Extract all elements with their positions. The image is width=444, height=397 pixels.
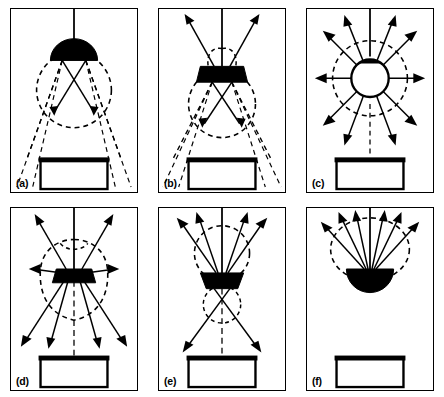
arrowhead [240,212,249,224]
light-ray [325,226,364,269]
arrowhead [107,264,119,274]
arrowhead [323,115,336,126]
arrowhead [250,14,260,25]
arrowhead [49,106,58,116]
arrowhead [379,210,388,222]
panel-c-diagram [307,9,433,192]
arrowhead [46,337,55,349]
arrowhead [104,214,114,226]
light-ray [54,60,86,111]
arrowhead [343,134,352,146]
arrowhead [315,73,327,83]
arrowhead [21,335,32,347]
panel-cell-c: (c) [296,0,444,199]
arrowhead [29,264,41,274]
arrowhead [321,222,333,233]
arrowhead [339,212,348,224]
light-ray [25,281,64,342]
luminaire-fixture [50,39,97,61]
panel-cell-e: (e) [148,199,296,397]
arrowhead [185,14,195,25]
panel-label-f: (f) [312,375,322,387]
light-ray [198,216,218,273]
work-surface [187,356,258,387]
arrowhead [93,337,102,349]
work-surface [335,356,406,387]
panel-e-diagram [159,208,285,390]
distribution-lobe [37,53,112,128]
arrowhead [177,218,189,229]
light-ray [187,289,230,348]
panel-a-diagram [11,9,137,192]
panel-label-c: (c) [312,177,324,189]
light-ray [212,82,240,124]
panel-d: (d) [10,207,138,391]
light-ray [50,281,68,344]
arrowhead [393,212,402,224]
arrowhead [407,222,419,233]
light-ray [204,82,232,124]
arrowhead [352,210,361,222]
luminaire-fixture [196,66,247,82]
work-surface [39,157,110,189]
work-surface [187,157,258,189]
light-ray [376,226,415,269]
light-ray [37,218,67,269]
panel-label-b: (b) [164,177,177,189]
arrowhead [404,115,417,126]
panel-f: (f) [306,207,434,391]
panel-cell-d: (d) [0,199,148,397]
arrowhead [90,106,99,116]
light-ray [181,222,216,273]
panel-label-e: (e) [164,375,176,387]
arrowhead [388,15,397,27]
distribution-lobe-upper [208,48,222,66]
light-ray [80,281,98,344]
arrowhead [343,15,352,27]
panel-f-diagram [307,208,433,390]
light-ray [84,281,123,342]
arrowhead [255,218,267,229]
light-ray [214,289,257,348]
light-ray [82,218,112,269]
panel-d-diagram [11,208,137,390]
panel-b-diagram [159,9,285,192]
panel-c: (c) [306,8,434,193]
arrowhead [198,118,207,128]
panel-cell-f: (f) [296,199,444,397]
panel-cell-b: (b) [148,0,296,199]
light-ray [187,17,215,66]
arrowhead [404,31,417,42]
work-surface [39,356,110,387]
arrowhead [413,73,425,83]
arrowhead [388,134,397,146]
panel-e: (e) [158,207,286,391]
panel-label-d: (d) [16,375,29,387]
panel-b: (b) [158,8,286,193]
panel-label-a: (a) [16,177,28,189]
distribution-lobe-upper [222,48,236,66]
panel-grid: (a) [0,0,444,397]
luminaire-fixture [346,269,393,293]
panel-cell-a: (a) [0,0,148,199]
panel-a: (a) [10,8,138,193]
arrowhead [251,341,262,353]
light-ray [230,17,258,66]
lighting-distribution-figure: (a) [0,0,444,397]
luminaire-fixture [351,59,388,97]
light-ray [226,216,246,273]
arrowhead [183,341,194,353]
light-ray [228,222,263,273]
arrowhead [237,118,246,128]
arrowhead [35,214,45,226]
luminaire-fixture [200,273,243,289]
light-ray [62,60,94,111]
luminaire-fixture [52,269,95,283]
arrowhead [323,31,336,42]
work-surface [335,157,406,189]
arrowhead [116,335,127,347]
arrowhead [195,212,204,224]
